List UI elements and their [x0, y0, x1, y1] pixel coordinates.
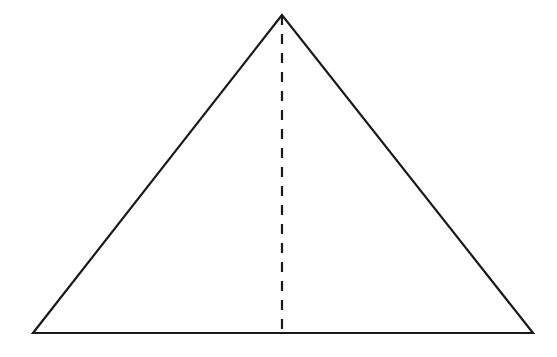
triangle-diagram: [0, 0, 557, 357]
diagram-canvas: [0, 0, 557, 357]
